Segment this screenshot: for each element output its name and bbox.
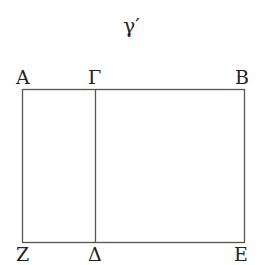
label-gamma: Γ [88,68,101,87]
label-zeta: Ζ [16,245,29,264]
label-alpha: Α [16,68,30,87]
label-epsilon: Ε [234,245,248,264]
label-beta: Β [235,68,249,87]
label-delta: Δ [88,245,102,264]
outer-rectangle [23,90,245,243]
rectangle-diagram [0,0,263,265]
